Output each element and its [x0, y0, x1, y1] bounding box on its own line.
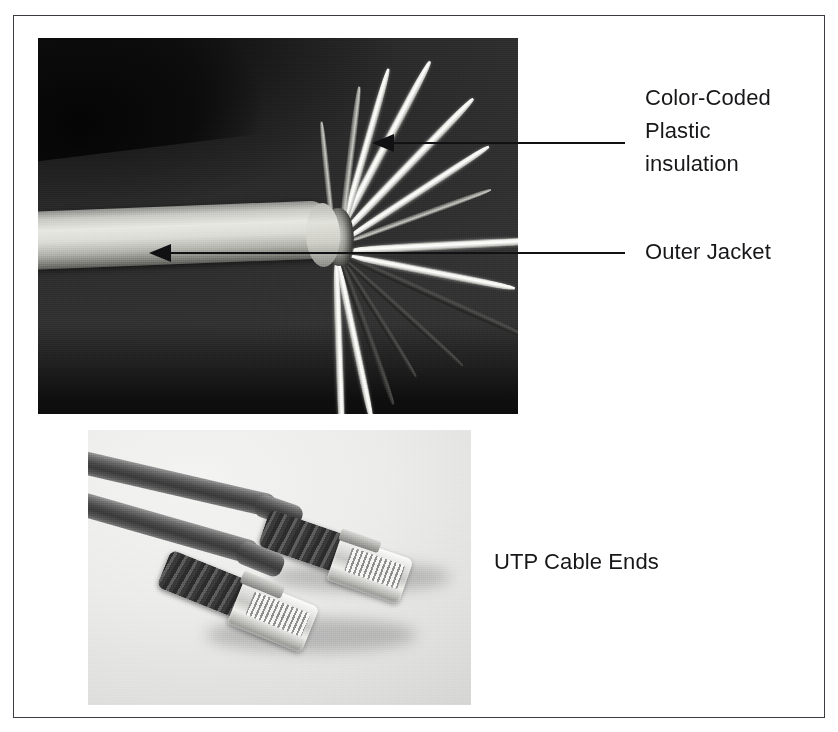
photo-utp-cable-ends: [88, 430, 471, 705]
rj45-contact-pins: [344, 548, 405, 589]
photo-stripped-utp-cable: [38, 38, 518, 414]
caption-utp-cable-ends: UTP Cable Ends: [494, 546, 659, 577]
leader-line-outer-jacket: [170, 252, 625, 254]
outer-jacket-body: [38, 200, 327, 269]
leader-arrowhead-outer-jacket: [149, 244, 171, 262]
photo-bottom-shadow: [38, 324, 518, 414]
leader-line-color-coded: [393, 142, 625, 144]
figure-root: Color-Coded Plastic insulation Outer Jac…: [0, 0, 838, 732]
leader-arrowhead-color-coded: [372, 134, 394, 152]
annotation-color-coded-line3: insulation: [645, 148, 739, 179]
annotation-color-coded-line2: Plastic: [645, 115, 711, 146]
annotation-color-coded-line1: Color-Coded: [645, 82, 771, 113]
annotation-outer-jacket: Outer Jacket: [645, 236, 771, 267]
